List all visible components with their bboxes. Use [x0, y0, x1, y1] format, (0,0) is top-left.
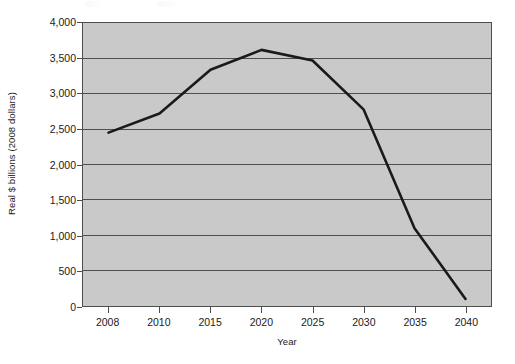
- x-axis-tick-mark: [108, 307, 109, 313]
- y-axis-tick-mark: [77, 200, 82, 201]
- y-axis-tick-mark: [77, 307, 82, 308]
- x-axis-tick-mark: [364, 307, 365, 313]
- y-axis-tick-mark: [77, 165, 82, 166]
- x-axis-tick-mark: [261, 307, 262, 313]
- y-axis-tick-label: 4,000: [22, 16, 76, 28]
- series-line: [109, 50, 466, 299]
- plot-area: [82, 22, 492, 307]
- x-axis-title: Year: [82, 336, 492, 347]
- x-axis-tick-label: 2040: [436, 316, 496, 328]
- x-axis-tick-mark: [415, 307, 416, 313]
- y-axis-tick-label: 2,500: [22, 123, 76, 135]
- y-axis-tick-mark: [77, 58, 82, 59]
- y-axis-tick-label: 1,500: [22, 194, 76, 206]
- x-axis-tick-mark: [159, 307, 160, 313]
- y-axis-tick-label: 0: [22, 301, 76, 313]
- y-axis-tick-label: 2,000: [22, 159, 76, 171]
- y-axis-tick-mark: [77, 129, 82, 130]
- y-axis-tick-labels: 05001,0001,5002,0002,5003,0003,5004,000: [22, 0, 76, 364]
- y-axis-tick-label: 3,000: [22, 87, 76, 99]
- y-axis-tick-label: 1,000: [22, 230, 76, 242]
- y-axis-tick-mark: [77, 22, 82, 23]
- data-series-line: [83, 23, 491, 306]
- x-axis-tick-mark: [210, 307, 211, 313]
- y-axis-tick-label: 3,500: [22, 52, 76, 64]
- y-axis-tick-mark: [77, 93, 82, 94]
- line-chart-figure: Real $ billions (2008 dollars) 05001,000…: [0, 0, 515, 364]
- y-axis-tick-mark: [77, 271, 82, 272]
- y-axis-tick-label: 500: [22, 265, 76, 277]
- y-axis-title: Real $ billions (2008 dollars): [0, 0, 22, 307]
- x-axis-tick-mark: [466, 307, 467, 313]
- x-axis-tick-mark: [313, 307, 314, 313]
- y-axis-tick-mark: [77, 236, 82, 237]
- cropped-caption-remnant: [60, 1, 260, 7]
